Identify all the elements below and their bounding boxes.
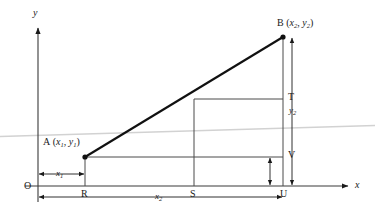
vertex-label-S: S bbox=[190, 189, 196, 199]
point-B-x-sub: 2 bbox=[294, 22, 297, 29]
point-B-dot bbox=[280, 34, 285, 39]
vertex-label-V: V bbox=[288, 150, 295, 160]
point-A-y-sub: 1 bbox=[73, 141, 76, 148]
dimension-label-x1: x1 bbox=[56, 169, 63, 178]
point-B-name: B bbox=[277, 17, 284, 28]
vertex-label-R: R bbox=[81, 189, 88, 199]
scan-artifact-line bbox=[0, 126, 375, 137]
point-B-y-sub: 2 bbox=[307, 22, 310, 29]
point-A-coords: (x1, y1) bbox=[50, 136, 80, 147]
dimension-x1-sub: 1 bbox=[60, 172, 63, 179]
point-B-label: B (x2, y2) bbox=[277, 18, 313, 28]
y-axis-label: y bbox=[33, 8, 37, 18]
point-A-x-sub: 1 bbox=[61, 141, 64, 148]
vertex-label-T: T bbox=[288, 92, 294, 102]
point-A-dot bbox=[82, 154, 87, 159]
segment-AB bbox=[85, 37, 283, 157]
point-B-coords: (x2, y2) bbox=[284, 17, 314, 28]
dimension-y2-sub: 2 bbox=[293, 109, 296, 116]
origin-label: O bbox=[24, 181, 31, 191]
x-axis-label: x bbox=[355, 180, 359, 190]
dimension-label-x2: x2 bbox=[155, 192, 162, 201]
geometry-figure: y x O A (x1, y1) B (x2, y2) R S U T V x1… bbox=[0, 0, 375, 222]
diagram-canvas bbox=[0, 0, 375, 222]
dimension-x2-sub: 2 bbox=[159, 195, 162, 202]
point-A-label: A (x1, y1) bbox=[43, 137, 80, 147]
dimension-label-y2: y2 bbox=[289, 106, 296, 115]
vertex-label-U: U bbox=[280, 189, 287, 199]
